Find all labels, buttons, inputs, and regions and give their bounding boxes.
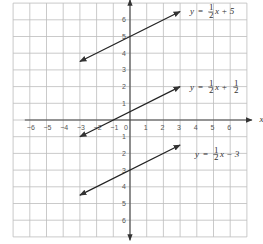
y-tick-label: 1 xyxy=(122,100,126,107)
x-tick-label: 1 xyxy=(144,124,148,131)
y-tick-label: 5 xyxy=(122,200,126,207)
svg-text:y: y xyxy=(194,149,199,159)
x-tick-label: −1 xyxy=(110,124,118,131)
x-tick-label: −6 xyxy=(27,124,35,131)
svg-text:2: 2 xyxy=(209,10,214,20)
svg-text:=: = xyxy=(198,6,203,16)
y-tick-label: 6 xyxy=(122,217,126,224)
x-tick-label: 5 xyxy=(211,124,215,131)
svg-text:x − 3: x − 3 xyxy=(219,149,240,159)
x-tick-label: −3 xyxy=(77,124,85,131)
x-axis-label: x xyxy=(259,114,263,124)
svg-text:2: 2 xyxy=(214,152,219,162)
x-tick-label: −4 xyxy=(60,124,68,131)
svg-text:2: 2 xyxy=(209,85,214,95)
svg-text:2: 2 xyxy=(234,85,239,95)
y-tick-label: 6 xyxy=(122,16,126,23)
svg-text:=: = xyxy=(203,149,208,159)
y-tick-label: 4 xyxy=(122,50,126,57)
svg-text:x +: x + xyxy=(214,82,227,92)
equation-label-1: y=12x + 5 xyxy=(189,2,235,20)
y-tick-label: 4 xyxy=(122,183,126,190)
axes: x xyxy=(25,0,263,240)
x-tick-label: 2 xyxy=(160,124,164,131)
x-tick-label: 3 xyxy=(177,124,181,131)
x-tick-label: 6 xyxy=(227,124,231,131)
svg-text:x + 5: x + 5 xyxy=(214,6,235,16)
svg-text:y: y xyxy=(189,6,194,16)
y-tick-label: 3 xyxy=(122,66,126,73)
x-tick-label: −5 xyxy=(44,124,52,131)
x-tick-label: 0 xyxy=(124,124,128,131)
y-tick-label: 2 xyxy=(122,83,126,90)
y-tick-label: 2 xyxy=(122,150,126,157)
y-tick-label: 1 xyxy=(122,133,126,140)
svg-text:=: = xyxy=(198,82,203,92)
coordinate-plane: x −6−5−4−3−2−10123456654321123456 y=12x … xyxy=(0,0,263,244)
svg-text:y: y xyxy=(189,82,194,92)
x-tick-label: 4 xyxy=(194,124,198,131)
